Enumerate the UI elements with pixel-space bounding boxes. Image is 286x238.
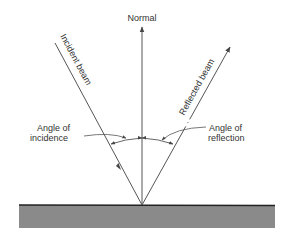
angle-incidence-label-line2: incidence — [30, 133, 68, 143]
angle-reflection-arc — [142, 138, 173, 144]
angle-reflection-label-line1: Angle of — [209, 123, 243, 133]
normal-label: Normal — [127, 13, 156, 23]
reflection-diagram: Normal Incident beam Reflected beam Angl… — [0, 0, 286, 238]
reflected-beam-label: Reflected beam — [177, 57, 216, 117]
surface-edge — [19, 205, 275, 206]
angle-reflection-label-line2: reflection — [208, 133, 245, 143]
angle-incidence-arc — [111, 138, 142, 144]
angle-incidence-label-line1: Angle of — [37, 123, 71, 133]
reflecting-surface — [19, 205, 275, 228]
